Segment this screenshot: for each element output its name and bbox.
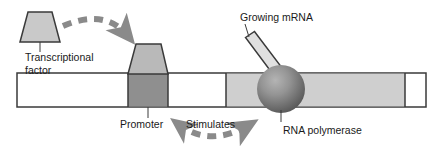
transcription-factor-shape (20, 12, 60, 42)
transcription-diagram: Transcriptional factor Promoter Stimulat… (0, 0, 444, 150)
dna-strand (17, 73, 426, 107)
bound-factor-shape (128, 44, 168, 74)
mrna-leader-line (245, 24, 249, 37)
rna-polymerase-label: RNA polymerase (283, 124, 362, 136)
promoter-label: Promoter (120, 118, 164, 130)
diagram-canvas: Transcriptional factor Promoter Stimulat… (0, 0, 444, 150)
gene-region (226, 74, 405, 107)
transcriptional-factor-label-line2: factor (25, 64, 52, 76)
transcriptional-factor-label-line1: Transcriptional (25, 51, 93, 63)
rna-polymerase (257, 65, 305, 122)
free-transcription-factor (20, 12, 60, 52)
growing-mrna-label: Growing mRNA (240, 11, 313, 23)
binding-arrow-path (63, 19, 128, 36)
polymerase-sphere (257, 65, 305, 113)
stimulates-label: Stimulates (186, 118, 235, 130)
bound-transcription-factor (128, 44, 168, 74)
binding-dashed-arrow (63, 19, 128, 36)
promoter-region (128, 74, 168, 107)
